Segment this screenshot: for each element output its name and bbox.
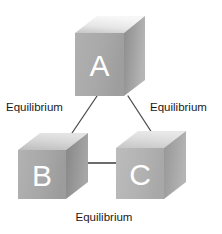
diagram-canvas: A B C Equilibrium Equilibrium Equilibriu… [0,0,222,234]
cube-b-letter: B [32,159,52,192]
cube-a[interactable]: A [75,16,145,96]
equilibrium-diagram: A B C Equilibrium Equilibrium Equilibriu… [0,0,222,234]
cube-c[interactable]: C [116,131,186,199]
cube-c-letter: C [129,158,151,191]
edge-label-b-c: Equilibrium [76,211,133,223]
cube-a-letter: A [89,49,109,82]
cube-b[interactable]: B [18,133,88,199]
connector-line-a-b [68,96,97,139]
edge-label-a-b: Equilibrium [6,101,63,113]
edge-label-a-c: Equilibrium [150,101,207,113]
